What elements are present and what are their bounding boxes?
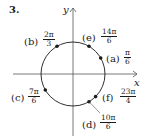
y-axis-label: y	[63, 4, 69, 15]
point-c	[44, 88, 48, 92]
label-f: (f)	[102, 93, 114, 103]
point-f	[94, 95, 98, 99]
point-b	[55, 45, 59, 49]
point-e	[87, 45, 91, 49]
label-c: (c)	[11, 93, 24, 103]
angle-e: 14π6	[101, 28, 117, 45]
angle-b: 2π3	[43, 31, 55, 48]
label-b: (b)	[24, 37, 38, 47]
angle-c: 7π6	[28, 88, 40, 105]
unit-circle-diagram	[0, 0, 141, 138]
angle-f: 23π4	[120, 88, 136, 105]
angle-d: 10π6	[100, 114, 116, 131]
label-a: (a)	[106, 54, 120, 64]
label-e: (e)	[82, 33, 96, 43]
angle-a: π6	[124, 49, 131, 66]
label-d: (d)	[82, 120, 96, 130]
problem-number: 3.	[9, 4, 19, 15]
leader-line-d	[89, 102, 100, 113]
point-a	[99, 56, 103, 60]
